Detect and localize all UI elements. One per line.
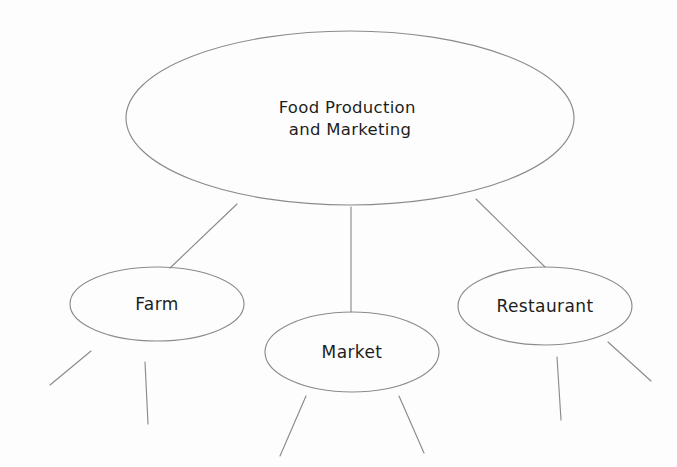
root-label-line2: and Marketing xyxy=(289,120,411,139)
market-label: Market xyxy=(322,342,383,362)
stub-restaurant-right xyxy=(608,342,651,381)
root-ellipse[interactable] xyxy=(126,31,574,205)
root-label-line1: Food Production xyxy=(279,98,416,117)
node-root[interactable]: Food Production and Marketing xyxy=(126,31,574,205)
stub-farm-down xyxy=(145,362,148,424)
farm-label: Farm xyxy=(135,294,179,314)
node-market[interactable]: Market xyxy=(265,312,439,392)
diagram-canvas: Food Production and Marketing Farm Marke… xyxy=(0,0,677,467)
stub-restaurant-down xyxy=(557,357,561,420)
concept-map-svg: Food Production and Marketing Farm Marke… xyxy=(0,0,677,467)
stub-market-right xyxy=(399,396,424,453)
link-root-to-restaurant xyxy=(476,199,545,267)
link-root-to-farm xyxy=(170,204,237,268)
node-restaurant[interactable]: Restaurant xyxy=(458,267,632,345)
stub-market-left xyxy=(280,396,306,456)
stub-farm-left xyxy=(50,351,91,385)
restaurant-label: Restaurant xyxy=(496,296,593,316)
node-farm[interactable]: Farm xyxy=(70,267,244,341)
